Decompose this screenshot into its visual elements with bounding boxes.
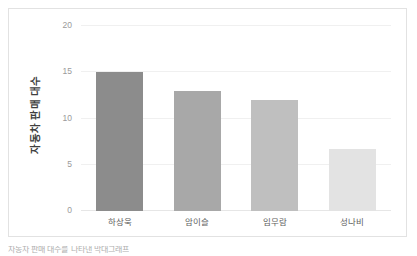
bar-slot [159,26,237,211]
y-axis-tick-label: 0 [67,205,72,215]
y-axis-tick-label: 5 [67,159,72,169]
figure-caption-text: 자동차 판매 대수를 나타낸 막대그래프 [8,246,308,255]
bar-slot [236,26,314,211]
y-axis-title-text: 자동차 판매 대수 [27,75,42,154]
bar[interactable] [174,91,221,211]
y-axis-tick-label: 10 [63,113,72,123]
chart-screenshot: 자동차 판매 대수 05101520 하상욱암이슬임무람성나비 자동차 판매 대… [0,0,417,256]
x-axis-category-label: 성나비 [314,215,392,227]
bars-group [81,26,391,211]
bar-slot [314,26,392,211]
y-axis-tick-label: 15 [63,66,72,76]
bar[interactable] [329,149,376,211]
y-axis-title: 자동차 판매 대수 [23,9,45,219]
figure-caption: 자동차 판매 대수를 나타낸 막대그래프 [8,246,308,256]
chart-card: 자동차 판매 대수 05101520 하상욱암이슬임무람성나비 [8,8,407,237]
x-axis-category-label: 임무람 [236,215,314,227]
bar-slot [81,26,159,211]
bar[interactable] [251,100,298,211]
x-axis-category-label: 암이슬 [159,215,237,227]
x-axis-category-labels: 하상욱암이슬임무람성나비 [81,215,391,233]
plot-area: 05101520 [81,26,391,211]
x-axis-category-label: 하상욱 [81,215,159,227]
bar[interactable] [96,72,143,211]
y-axis-tick-label: 20 [63,20,72,30]
